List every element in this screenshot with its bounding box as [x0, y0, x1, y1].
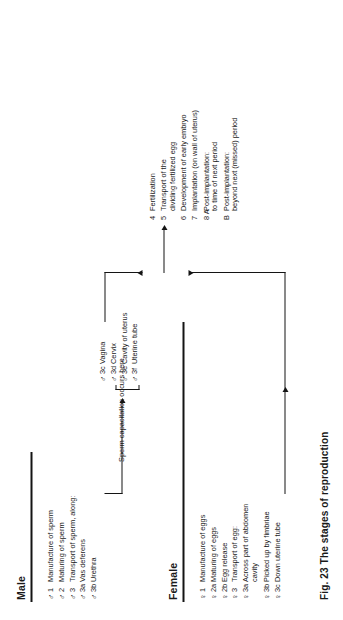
male-symbol-icon: ♂	[57, 592, 66, 600]
joint-stage-label: Post-implantation:beyond next (missed) p…	[222, 118, 240, 211]
male-symbol-icon: ♂	[68, 592, 77, 600]
male-stage-list: ♂1Manufacture of sperm♂2Maturing of sper…	[46, 496, 100, 600]
male-stage-number: 3a	[78, 582, 87, 592]
joint-stage-label: Development of early embryo	[179, 114, 188, 211]
male-tract-flow-up-arrow-icon	[137, 270, 142, 276]
male-stage-row: ♂2Maturing of sperm	[57, 496, 66, 600]
female-symbol-icon: ♀	[198, 592, 207, 600]
joint-stage-label: Fertilization	[148, 173, 157, 211]
male-tract-stage-list: ♂3cVagina♂3dCervix♂3eCavity of uterus♂3f…	[98, 313, 141, 382]
male-tract-stage-row: ♂3fUterine tube	[130, 313, 139, 382]
joint-stage-row: 7Implantation (on wall of uterus)	[190, 110, 199, 220]
male-tract-flow-vertical	[104, 272, 142, 273]
male-tract-stage-label: Vagina	[98, 342, 107, 364]
male-stage-label: Vas deferens	[78, 539, 87, 582]
female-flow-arrow-icon	[282, 387, 288, 392]
female-header-rule	[182, 322, 184, 602]
male-symbol-icon: ♂	[78, 592, 87, 600]
female-stage-label: Across part of abdomencavity	[241, 504, 258, 582]
female-stage-number: 2b	[220, 582, 229, 592]
joint-stage-number: B	[222, 211, 231, 220]
female-symbol-icon: ♀	[273, 592, 282, 600]
joint-stage-label: Implantation (on wall of uterus)	[190, 110, 199, 211]
female-stage-number: 3b	[262, 582, 271, 592]
male-stage-label: Urethra	[89, 557, 98, 582]
joint-stage-number: 7	[190, 211, 199, 220]
male-tract-stage-number: 3d	[109, 364, 118, 374]
joint-stage-number: 5	[159, 211, 168, 220]
male-tract-stage-number: 3f	[130, 364, 139, 374]
male-stage-number: 1	[46, 582, 55, 592]
male-stage-number: 3b	[89, 582, 98, 592]
female-symbol-icon: ♀	[262, 592, 271, 600]
figure-caption: Fig. 23 The stages of reproduction	[318, 432, 329, 600]
male-symbol-icon: ♂	[98, 374, 107, 382]
fertilization-flow-horizontal	[163, 229, 164, 273]
male-stage-label: Transport of sperm, along:	[68, 496, 77, 582]
female-stage-number: 2a	[209, 582, 218, 592]
female-stage-row: ♀2aMaturing of eggs	[209, 504, 218, 600]
joint-stage-number: 6	[179, 211, 188, 220]
joint-stage-label: Transport of thedividing fertilized egg	[159, 142, 177, 211]
male-tract-stage-row: ♂3eCavity of uterus	[120, 313, 129, 382]
female-symbol-icon: ♀	[230, 592, 239, 600]
female-symbol-icon: ♀	[209, 592, 218, 600]
male-stage-row: ♂3aVas deferens	[78, 496, 87, 600]
female-stage-number: 1	[198, 582, 207, 592]
male-symbol-icon: ♂	[46, 592, 55, 600]
joint-stage-number: 8 A	[202, 211, 211, 220]
male-flow-to-tract	[121, 402, 122, 494]
male-stage-number: 2	[57, 582, 66, 592]
female-stage-label: Egg release	[220, 543, 229, 582]
male-header-rule	[30, 452, 32, 602]
male-tract-stage-label: Cervix	[109, 343, 118, 364]
female-stage-label: Manufacture of eggs	[198, 515, 207, 582]
joint-stage-row: BPost-implantation:beyond next (missed) …	[222, 110, 240, 220]
fertilization-arrow-icon	[161, 225, 167, 230]
male-tract-stage-row: ♂3cVagina	[98, 313, 107, 382]
female-stage-label: Picked up by fimbriae	[262, 511, 271, 582]
joint-stage-list: 4Fertilization5Transport of thedividing …	[148, 110, 242, 220]
joint-stage-row: 5Transport of thedividing fertilized egg	[159, 110, 177, 220]
female-flow-vertical	[190, 272, 285, 273]
male-stage-number: 3	[68, 582, 77, 592]
male-tract-stage-label: Cavity of uterus	[120, 313, 129, 364]
male-tract-stage-row: ♂3dCervix	[109, 313, 118, 382]
male-stage-label: Manufacture of sperm	[46, 510, 55, 582]
joint-stage-row: 8 APost-implantation:to time of next per…	[202, 110, 220, 220]
male-tract-stage-number: 3e	[120, 364, 129, 374]
figure-rotation-wrapper: Male ♂1Manufacture of sperm♂2Maturing of…	[0, 0, 343, 620]
female-stage-row: ♀3cDown uterine tube	[273, 511, 282, 600]
capacitation-note-line1: Sperm capacitation	[116, 399, 125, 462]
female-stage-row: ♀3bPicked up by fimbriae	[262, 511, 271, 600]
male-column-header: Male	[14, 576, 26, 600]
male-stage-row: ♂3bUrethra	[89, 496, 98, 600]
joint-stage-row: 6Development of early embryo	[179, 110, 188, 220]
male-flow-arrow-icon	[119, 398, 125, 403]
female-stage-label: Maturing of eggs	[209, 527, 218, 582]
male-tract-flow-horizontal	[104, 272, 105, 322]
joint-stage-label: Post-implantation:to time of next period	[202, 142, 220, 211]
male-stage-label: Maturing of sperm	[57, 522, 66, 582]
female-flow-horizontal	[284, 272, 285, 494]
male-symbol-icon: ♂	[109, 374, 118, 382]
male-tract-stage-label: Uterine tube	[130, 324, 139, 364]
male-stage-row: ♂3Transport of sperm, along:	[68, 496, 77, 600]
female-stage-list-continued: ♀3bPicked up by fimbriae♀3cDown uterine …	[262, 511, 284, 600]
male-flow-riser	[104, 493, 122, 494]
female-stage-label: Down uterine tube	[273, 522, 282, 582]
female-column-header: Female	[166, 563, 178, 600]
capacitation-bracket	[115, 385, 139, 390]
male-symbol-icon: ♂	[130, 374, 139, 382]
joint-stage-number: 4	[148, 211, 157, 220]
female-stage-row: ♀2bEgg release	[220, 504, 229, 600]
female-stage-number: 3a	[241, 582, 250, 592]
female-symbol-icon: ♀	[241, 592, 250, 600]
joint-stage-row: 4Fertilization	[148, 110, 157, 220]
female-symbol-icon: ♀	[220, 592, 229, 600]
female-stage-label: Transport of egg:	[230, 526, 239, 582]
male-stage-row: ♂1Manufacture of sperm	[46, 496, 55, 600]
male-symbol-icon: ♂	[120, 374, 129, 382]
female-stage-number: 3c	[273, 582, 282, 592]
female-flow-down-arrow-icon	[188, 270, 193, 276]
